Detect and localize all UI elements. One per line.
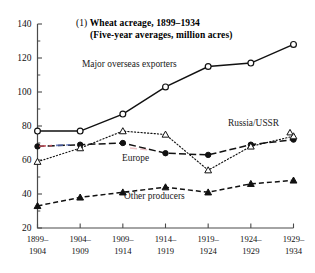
y-tick-label: 80 [22, 121, 32, 131]
x-tick-label: 1914– [155, 234, 177, 244]
page-title: Wheat acreage, 1899–1934 [90, 18, 200, 28]
series-annotation: Europe [122, 153, 149, 163]
data-point [77, 194, 84, 200]
y-tick-label: 40 [22, 189, 32, 199]
series-annotation: Other producers [124, 191, 185, 201]
data-point [163, 151, 168, 156]
y-axis-tick-labels: 20406080100120140 [17, 19, 32, 233]
series-2 [35, 137, 296, 158]
data-point [163, 84, 169, 90]
y-tick-label: 100 [17, 87, 32, 97]
x-tick-label: 1904– [69, 234, 91, 244]
y-tick-label: 60 [22, 155, 32, 165]
chart-subtitle: (Five-year averages, million acres) [76, 30, 232, 42]
y-tick-label: 140 [17, 19, 32, 29]
data-point [120, 111, 126, 117]
y-tick-label: 120 [17, 53, 32, 63]
x-tick-label: 1919– [197, 234, 219, 244]
series-annotation: Russia/USSR [228, 118, 280, 128]
x-tick-label: 1929 [242, 246, 259, 256]
data-point [77, 128, 83, 134]
x-tick-label: 1909 [72, 246, 89, 256]
x-tick-label: 1924– [240, 234, 262, 244]
x-tick-label: 1914 [114, 246, 132, 256]
x-tick-label: 1934 [285, 246, 303, 256]
data-point [291, 42, 297, 48]
x-tick-label: 1899– [27, 234, 49, 244]
data-point [162, 131, 169, 137]
chart-title-block: (1) Wheat acreage, 1899–1934 (Five-year … [76, 18, 232, 41]
data-point [34, 158, 41, 164]
data-point [205, 64, 211, 70]
y-tick-label: 20 [22, 223, 32, 233]
x-tick-label: 1929– [283, 234, 305, 244]
data-point [205, 152, 210, 157]
figure-number: (1) [76, 18, 87, 28]
data-point [248, 60, 254, 66]
x-tick-label: 1904 [29, 246, 47, 256]
data-point [120, 140, 125, 145]
series-annotation: Major overseas exporters [82, 59, 177, 69]
russia-ussr-legend-marker [287, 129, 293, 135]
x-tick-label: 1909– [112, 234, 134, 244]
x-tick-label: 1924 [200, 246, 218, 256]
x-axis-tick-labels: 1899–19041904–19091909–19141914–19191919… [27, 234, 305, 256]
x-tick-label: 1919 [157, 246, 174, 256]
data-point [35, 128, 41, 134]
annotation-layer: Major overseas exportersEuropeRussia/USS… [82, 59, 293, 201]
figure-wheat-acreage: (1) Wheat acreage, 1899–1934 (Five-year … [0, 0, 315, 273]
cropped-header-text [108, 0, 214, 2]
